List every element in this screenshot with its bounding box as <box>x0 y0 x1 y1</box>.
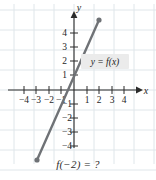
coordinate-plane-svg: −4 −3 −2 −1 1 2 3 4 4 3 2 1 −1 −2 −3 −4 … <box>0 0 156 180</box>
figure-caption: f(−2) = ? <box>0 158 156 170</box>
y-axis-label: y <box>76 2 82 13</box>
x-axis <box>8 86 143 94</box>
x-tick-label: 4 <box>122 95 127 105</box>
x-tick-label: −4 <box>19 95 29 105</box>
graph-figure: −4 −3 −2 −1 1 2 3 4 4 3 2 1 −1 −2 −3 −4 … <box>0 0 156 180</box>
x-tick-label: −2 <box>44 95 54 105</box>
x-tick-label: 1 <box>85 95 90 105</box>
grid-lines <box>0 4 156 170</box>
y-tick-label: 1 <box>62 70 67 80</box>
line-endpoint-upper <box>96 17 101 22</box>
x-tick-label: 3 <box>110 95 115 105</box>
x-axis-label: x <box>143 85 149 96</box>
curve-label-group: y = f(x) <box>81 54 129 69</box>
y-tick-label: −2 <box>62 113 72 123</box>
y-tick-label: 2 <box>62 56 67 66</box>
y-tick-label: −3 <box>62 127 72 137</box>
y-tick-label: −4 <box>62 141 72 151</box>
x-tick-label: 2 <box>97 95 102 105</box>
y-tick-label: 4 <box>62 28 67 38</box>
x-tick-label: −3 <box>31 95 41 105</box>
curve-label: y = f(x) <box>90 57 120 68</box>
y-tick-label: 3 <box>62 42 67 52</box>
